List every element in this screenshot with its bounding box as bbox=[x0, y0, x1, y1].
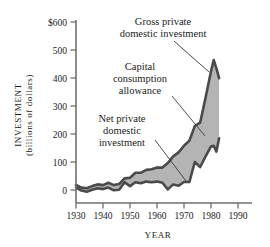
annotation-capital-line2: consumption bbox=[113, 73, 168, 84]
y-axis-title-line1: INVESTMENT bbox=[13, 83, 23, 147]
x-tick-label-1960: 1960 bbox=[148, 211, 167, 221]
annotation-gross-line1: Gross private bbox=[135, 16, 192, 27]
y-tick-label-300: 300 bbox=[53, 102, 68, 112]
annotation-net-line1: Net private bbox=[99, 113, 146, 124]
y-tick-label-200: 200 bbox=[53, 130, 68, 140]
x-tick-label-1950: 1950 bbox=[121, 211, 140, 221]
investment-chart-figure: $600 500 400 300 200 100 0 INVESTMENT (b… bbox=[0, 0, 270, 247]
annotation-net-line3: investment bbox=[99, 137, 145, 148]
x-tick-label-1980: 1980 bbox=[202, 211, 221, 221]
y-axis-title: INVESTMENT (billions of dollars) bbox=[13, 74, 34, 156]
annotation-net-line2: domestic bbox=[103, 125, 141, 136]
x-tick-label-1970: 1970 bbox=[175, 211, 194, 221]
annotation-gross-line2: domestic investment bbox=[120, 28, 207, 39]
y-tick-label-400: 400 bbox=[53, 74, 68, 84]
x-tick-label-1930: 1930 bbox=[67, 211, 86, 221]
annotation-capital-line1: Capital bbox=[125, 61, 155, 72]
y-tick-label-500: 500 bbox=[53, 46, 68, 56]
y-tick-label-0: 0 bbox=[62, 186, 67, 196]
x-axis-title: YEAR bbox=[145, 230, 172, 240]
y-tick-label-600: $600 bbox=[48, 18, 67, 28]
x-tick-label-1990: 1990 bbox=[229, 211, 248, 221]
y-axis-title-line2: (billions of dollars) bbox=[24, 74, 34, 156]
y-tick-label-100: 100 bbox=[53, 158, 68, 168]
x-tick-label-1940: 1940 bbox=[94, 211, 113, 221]
annotation-capital-line3: allowance bbox=[119, 85, 162, 96]
chart-svg: $600 500 400 300 200 100 0 INVESTMENT (b… bbox=[0, 0, 270, 247]
